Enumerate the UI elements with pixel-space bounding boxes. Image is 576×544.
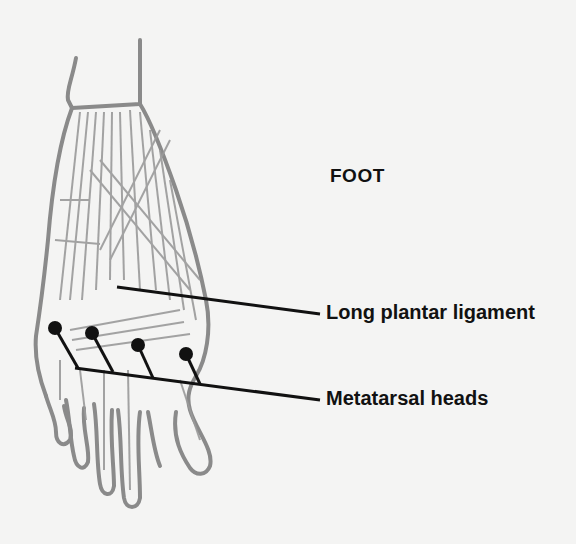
label-long-plantar-ligament: Long plantar ligament bbox=[326, 302, 535, 322]
marker-dot-2 bbox=[85, 326, 99, 340]
foot-anatomy-illustration bbox=[0, 0, 576, 544]
marker-dot-1 bbox=[48, 321, 62, 335]
foot-hatching bbox=[55, 110, 200, 490]
marker-dot-3 bbox=[131, 338, 145, 352]
label-metatarsal-heads: Metatarsal heads bbox=[326, 388, 488, 408]
figure-title: FOOT bbox=[330, 166, 385, 185]
leader-line-ligament bbox=[117, 287, 320, 314]
marker-dot-4 bbox=[179, 347, 193, 361]
